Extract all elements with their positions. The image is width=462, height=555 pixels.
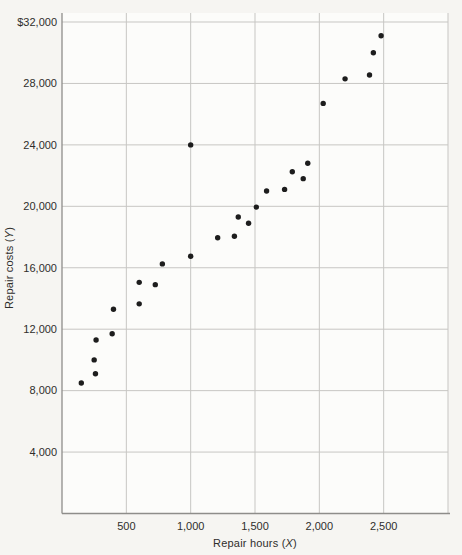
y-tick-label: 4,000 [29,446,57,458]
data-point [246,221,251,226]
y-tick-label: 16,000 [23,262,57,274]
y-tick-label: 8,000 [29,384,57,396]
scatter-figure: $32,00028,00024,00020,00016,00012,0008,0… [0,0,462,555]
data-point [188,142,193,147]
data-point [93,371,98,376]
y-axis-title: Repair costs (Y) [3,227,15,309]
data-point [254,204,259,209]
data-point [91,357,96,362]
data-point [160,261,165,266]
data-point [342,76,347,81]
data-point [153,282,158,287]
data-point [282,187,287,192]
data-point [320,101,325,106]
x-tick-label: 2,500 [370,520,398,532]
data-point [371,50,376,55]
data-point [290,169,295,174]
data-point [367,72,372,77]
data-point [378,33,383,38]
data-point [188,254,193,259]
x-axis-title-suffix: ) [293,537,297,549]
x-axis-title: Repair hours (X) [213,537,297,549]
data-point [137,301,142,306]
y-tick-label: 28,000 [23,77,57,89]
data-point [215,235,220,240]
x-tick-label: 1,500 [241,520,269,532]
data-point [79,380,84,385]
y-axis-title-text: Repair costs ( [3,238,15,309]
y-tick-label: 20,000 [23,200,57,212]
x-tick-labels: 5001,0001,5002,0002,500 [117,520,397,532]
data-point [109,331,114,336]
x-axis-title-text: Repair hours ( [213,537,286,549]
scatter-plot: $32,00028,00024,00020,00016,00012,0008,0… [0,0,462,555]
data-point [305,161,310,166]
y-axis-title-suffix: ) [3,227,15,231]
data-point [236,214,241,219]
y-tick-label: $32,000 [17,16,57,28]
x-tick-label: 500 [117,520,135,532]
y-tick-label: 24,000 [23,139,57,151]
x-tick-label: 2,000 [306,520,334,532]
data-point [232,234,237,239]
data-point [264,188,269,193]
data-point [111,307,116,312]
y-tick-label: 12,000 [23,323,57,335]
x-tick-label: 1,000 [177,520,205,532]
data-point [137,280,142,285]
y-tick-labels: $32,00028,00024,00020,00016,00012,0008,0… [17,16,57,458]
data-point [301,176,306,181]
data-point [93,337,98,342]
